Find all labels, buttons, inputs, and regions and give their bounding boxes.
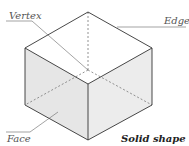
diagram-title: Solid shape: [121, 133, 186, 144]
vertex-label: Vertex: [9, 10, 42, 21]
solid-shape-diagram: Vertex Edge Face Solid shape: [0, 0, 189, 146]
edge-label: Edge: [163, 15, 189, 26]
face-label: Face: [6, 133, 31, 144]
cube-figure: Vertex Edge Face Solid shape: [0, 0, 189, 146]
